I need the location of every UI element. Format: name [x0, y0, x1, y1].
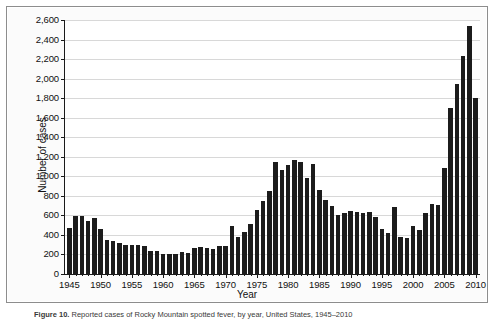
x-axis-tick — [76, 274, 77, 276]
bar — [261, 201, 266, 274]
bar — [217, 246, 222, 274]
x-axis-tick — [88, 274, 89, 276]
x-axis-tick — [351, 274, 352, 278]
x-axis-tick — [269, 274, 270, 276]
x-axis-tick — [307, 274, 308, 276]
x-axis-tick — [132, 274, 133, 278]
bar — [448, 108, 453, 274]
bar — [292, 160, 297, 274]
x-axis-tick — [169, 274, 170, 276]
bar — [461, 56, 466, 274]
x-axis-tick — [357, 274, 358, 276]
x-axis-tick — [276, 274, 277, 276]
y-axis-tick-label: 600 — [43, 211, 59, 221]
bar — [236, 237, 241, 274]
x-axis-tick — [476, 274, 477, 278]
y-axis-tick-labels: 02004006008001,0001,2001,4001,6001,8002,… — [7, 7, 63, 302]
bar — [105, 240, 110, 274]
bar — [255, 210, 260, 274]
x-axis-tick — [313, 274, 314, 276]
x-axis-tick — [107, 274, 108, 276]
bar — [173, 254, 178, 274]
bar — [98, 229, 103, 274]
x-axis-title: Year — [7, 289, 487, 300]
x-axis-tick — [363, 274, 364, 276]
x-axis-tick — [369, 274, 370, 276]
y-axis-tick-label: 1,400 — [36, 132, 59, 142]
x-axis-tick — [251, 274, 252, 276]
bar — [311, 164, 316, 274]
bar — [405, 238, 410, 274]
x-axis-tick — [432, 274, 433, 276]
x-axis-tick — [451, 274, 452, 276]
x-axis-tick — [257, 274, 258, 278]
bar — [336, 215, 341, 274]
y-axis-tick-label: 2,600 — [36, 15, 59, 25]
bar — [386, 233, 391, 274]
x-axis-tick — [207, 274, 208, 276]
bar — [92, 218, 97, 274]
bar — [330, 206, 335, 274]
figure-number: Figure 10. — [34, 310, 69, 319]
x-axis-tick — [426, 274, 427, 276]
x-axis-tick — [344, 274, 345, 276]
bar — [73, 216, 78, 274]
bar — [273, 162, 278, 274]
x-axis-tick — [469, 274, 470, 276]
bar-series — [65, 20, 480, 274]
bar — [67, 228, 72, 274]
y-axis-tick-label: 2,200 — [36, 54, 59, 64]
x-axis-tick — [294, 274, 295, 276]
x-axis-tick — [263, 274, 264, 276]
y-axis-tick-label: 1,200 — [36, 152, 59, 162]
y-axis-tick-label: 200 — [43, 250, 59, 260]
bar — [348, 211, 353, 274]
bar — [242, 232, 247, 274]
bar — [211, 249, 216, 274]
x-axis-tick — [226, 274, 227, 278]
figure-caption-text: Reported cases of Rocky Mountain spotted… — [72, 310, 353, 319]
x-axis-tick — [126, 274, 127, 276]
bar — [155, 251, 160, 274]
x-axis-tick — [119, 274, 120, 276]
bar — [130, 245, 135, 274]
figure-container: Number of cases 02004006008001,0001,2001… — [0, 0, 500, 326]
x-axis-tick — [182, 274, 183, 276]
plot-wrapper: Number of cases 02004006008001,0001,2001… — [7, 7, 487, 302]
bar — [205, 248, 210, 274]
x-axis-tick — [188, 274, 189, 276]
bar — [148, 251, 153, 274]
bar — [117, 243, 122, 274]
y-axis-tick-label: 400 — [43, 230, 59, 240]
x-axis-tick — [401, 274, 402, 276]
bar — [223, 246, 228, 274]
bar — [430, 204, 435, 274]
bar — [142, 246, 147, 274]
x-axis-tick — [382, 274, 383, 278]
bar — [361, 213, 366, 274]
bar — [436, 205, 441, 274]
x-axis-tick — [151, 274, 152, 276]
bar — [392, 207, 397, 274]
bar — [230, 226, 235, 274]
bar — [380, 229, 385, 274]
x-axis-tick — [338, 274, 339, 276]
y-axis-tick-label: 1,600 — [36, 113, 59, 123]
figure-caption: Figure 10. Reported cases of Rocky Mount… — [34, 310, 474, 324]
x-axis-tick — [194, 274, 195, 278]
bar — [373, 217, 378, 274]
x-axis-tick — [144, 274, 145, 276]
bar — [192, 248, 197, 274]
bar — [317, 190, 322, 274]
bar — [161, 254, 166, 274]
x-axis-tick — [419, 274, 420, 276]
bar — [111, 241, 116, 274]
bar — [280, 170, 285, 274]
x-axis-tick — [376, 274, 377, 276]
bar — [455, 84, 460, 275]
x-axis-tick — [219, 274, 220, 276]
y-axis-tick-label: 2,400 — [36, 35, 59, 45]
bar — [80, 216, 85, 274]
bar — [286, 165, 291, 274]
bar — [123, 245, 128, 274]
